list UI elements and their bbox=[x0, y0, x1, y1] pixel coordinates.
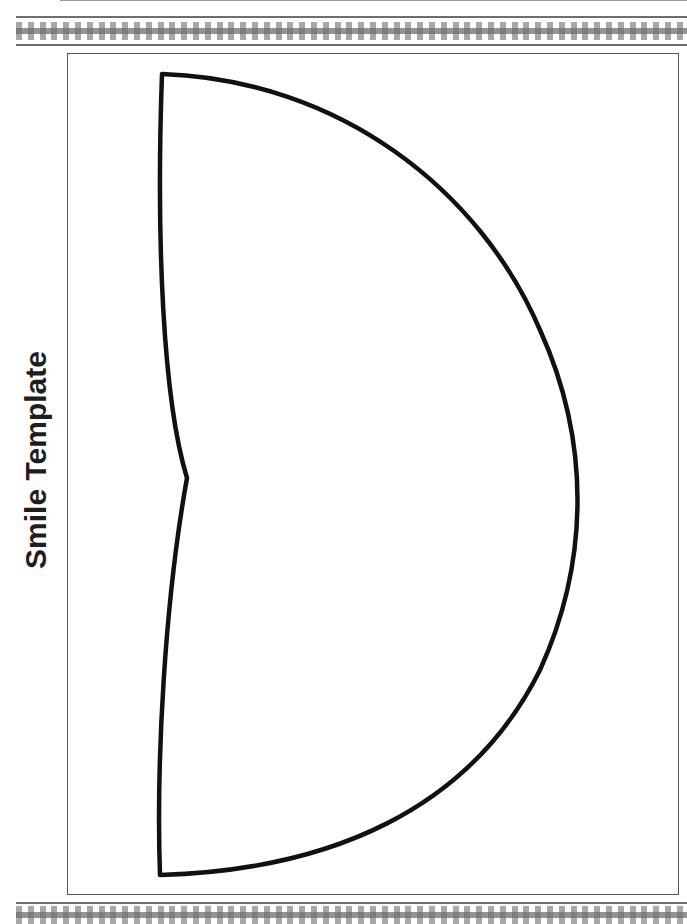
bottom-checker-pattern bbox=[16, 906, 687, 924]
bottom-border-rule bbox=[16, 902, 687, 904]
smile-mouth-path bbox=[159, 74, 577, 875]
bottom-checkered-border bbox=[16, 902, 687, 924]
smile-shape-outline bbox=[0, 0, 687, 924]
